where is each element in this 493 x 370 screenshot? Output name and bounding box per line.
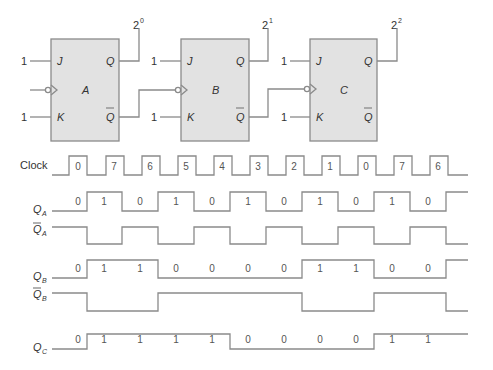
ff-a-output-weight: 2 [133,19,139,31]
qc-state-value: 0 [353,334,359,345]
ff-a-pin-j: J [56,55,63,67]
ff-b-pin-qbar: Q [236,111,245,123]
ff-b-pin-j: J [186,55,193,67]
qb-state-value: 1 [101,263,107,274]
qc-state-value: 1 [101,334,107,345]
counter-diagram: 1 1 J K Q Q A 2 0 1 1 J K Q Q B 2 1 [0,0,493,370]
qc-state-value: 0 [245,334,251,345]
ff-c-pin-j: J [315,55,322,67]
qa-state-value: 0 [281,196,287,207]
ff-c-pin-q: Q [364,55,373,67]
qa-state-value: 1 [245,196,251,207]
clock-count-label: 4 [219,161,225,172]
clock-count-label: 5 [183,161,189,172]
ff-a-pin-qbar: Q [106,111,115,123]
ff-b-pin-q: Q [236,55,245,67]
clock-count-label: 1 [327,161,333,172]
clock-count-label: 0 [75,161,81,172]
ff-c-k-value: 1 [281,111,287,123]
ff-c-output-weight: 2 [391,19,397,31]
qa-state-value: 1 [389,196,395,207]
qb-state-value: 0 [389,263,395,274]
qc-state-value: 0 [317,334,323,345]
qb-state-value: 0 [173,263,179,274]
qa-state-value: 1 [317,196,323,207]
qa-state-value: 0 [353,196,359,207]
ff-c-j-value: 1 [281,55,287,67]
clock-waveform: Clock 07654321076 [20,156,468,175]
ff-b-pin-k: K [187,111,195,123]
qc-waveform: QC 01111000011 [33,334,468,355]
qb-state-value: 0 [75,263,81,274]
ff-c-pin-qbar: Q [364,111,373,123]
qb-state-value: 1 [353,263,359,274]
svg-text:2: 2 [398,17,402,24]
clock-count-label: 2 [291,161,297,172]
qa-waveform: QA 01010101010 [33,192,468,217]
qa-state-value: 0 [75,196,81,207]
qb-bar-waveform: QB [33,288,468,311]
clock-count-label: 6 [147,161,153,172]
clock-count-label: 0 [363,161,369,172]
qb-state-value: 0 [281,263,287,274]
svg-text:Q: Q [33,223,42,235]
qb-state-value: 0 [209,263,215,274]
qa-state-value: 1 [173,196,179,207]
qb-waveform: QB 01100001100 [33,260,468,284]
ff-b-k-value: 1 [151,111,157,123]
clock-label: Clock [20,159,48,171]
clock-count-label: 6 [435,161,441,172]
svg-text:Q: Q [33,270,42,282]
ff-a-k-value: 1 [21,111,27,123]
ff-a-pin-q: Q [106,55,115,67]
ff-b-output-weight: 2 [262,19,268,31]
ff-b-name: B [212,84,219,96]
svg-text:B: B [42,277,47,284]
qa-state-value: 0 [209,196,215,207]
clock-count-label: 7 [399,161,405,172]
ff-b-j-value: 1 [151,55,157,67]
svg-text:Q: Q [33,288,42,300]
svg-text:A: A [41,230,47,237]
qb-state-value: 0 [425,263,431,274]
svg-text:0: 0 [140,17,144,24]
qa-state-value: 1 [101,196,107,207]
qc-state-value: 0 [281,334,287,345]
qb-state-value: 0 [245,263,251,274]
svg-text:A: A [41,210,47,217]
svg-text:Q: Q [33,341,42,353]
qa-state-value: 0 [425,196,431,207]
ff-c-pin-k: K [316,111,324,123]
clock-count-label: 7 [111,161,117,172]
ff-a-j-value: 1 [21,55,27,67]
svg-text:Q: Q [33,203,42,215]
qc-state-value: 1 [173,334,179,345]
qa-bar-waveform: QA [33,223,468,244]
svg-text:1: 1 [269,17,273,24]
ff-a-pin-k: K [57,111,65,123]
svg-text:B: B [42,295,47,302]
qc-state-value: 1 [137,334,143,345]
qc-state-value: 1 [389,334,395,345]
flip-flop-c: 1 1 J K Q Q C 2 2 [281,17,402,141]
qb-state-value: 1 [317,263,323,274]
qc-state-value: 1 [425,334,431,345]
clock-count-label: 3 [255,161,261,172]
svg-text:C: C [42,348,48,355]
qb-state-value: 1 [137,263,143,274]
ff-c-name: C [340,84,348,96]
qc-state-value: 1 [209,334,215,345]
qa-state-value: 0 [137,196,143,207]
ff-a-name: A [81,84,89,96]
qc-state-value: 0 [75,334,81,345]
